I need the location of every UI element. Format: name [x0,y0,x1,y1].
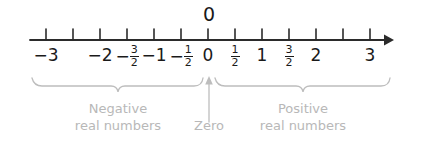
positive-numbers-caption: Positive real numbers [223,100,383,134]
negative-numbers-brace [32,78,203,92]
positive-caption-line-1: Positive [223,100,383,117]
tick-label-three: 3 [350,47,390,64]
origin-top-label: 0 [194,5,224,24]
negative-caption-line-2: real numbers [38,117,198,134]
positive-numbers-brace [215,78,390,92]
fraction-denominator: 2 [231,56,240,69]
fraction-denominator: 2 [285,56,294,69]
tick-marks [46,29,370,40]
minus-sign: − [33,45,47,65]
tick-label-neg-3: −3 [26,47,66,64]
positive-caption-line-2: real numbers [223,117,383,134]
negative-caption-line-1: Negative [38,100,198,117]
negative-numbers-caption: Negative real numbers [38,100,198,134]
fraction-numerator: 3 [285,44,294,56]
minus-sign: − [169,46,183,66]
minus-sign: − [87,45,101,65]
fraction-three-halves: 32 [285,44,294,68]
zero-pointer-arrow [205,76,213,122]
axis-arrowhead-right [384,35,394,46]
tick-label-neg-3-value: 3 [48,45,59,65]
minus-sign: − [141,45,155,65]
fraction-one-half: 12 [231,44,240,68]
tick-label-two: 2 [296,47,336,64]
minus-sign: − [115,46,129,66]
fraction-numerator: 1 [231,44,240,56]
number-line-figure: 0 −3 −2 −32 −1 −12 0 12 1 32 2 3 Negativ… [0,0,424,157]
